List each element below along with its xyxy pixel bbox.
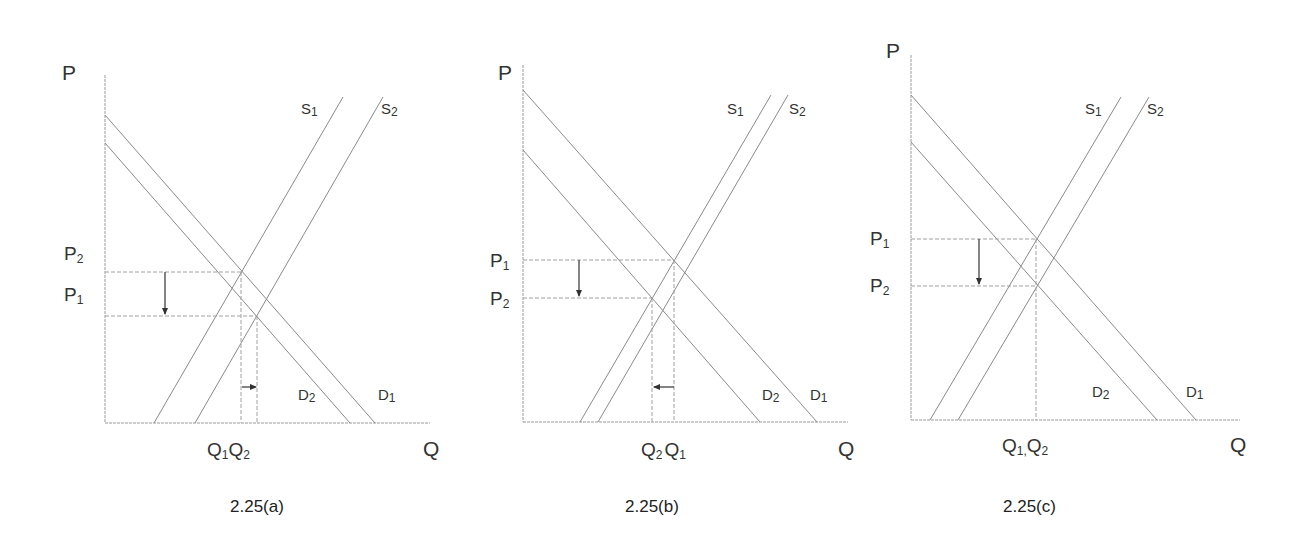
curve-label-s1: S1: [301, 100, 318, 119]
supply-curve-s2: [958, 97, 1149, 420]
curve-label-d1: D1: [810, 386, 828, 405]
curve-label-d2: D2: [298, 386, 316, 405]
supply-curve-s2: [195, 97, 383, 423]
demand-curve-d1: [911, 95, 1196, 420]
curve-label-d2: D2: [1092, 383, 1110, 402]
price-label-p2: P2: [64, 243, 84, 266]
caption-a: 2.25(a): [230, 497, 284, 516]
supply-demand-figure: P Q P2 P1 Q1Q2 S1 S2 D2 D1 2.25(a) P Q P…: [0, 0, 1316, 548]
price-label-p2: P2: [870, 275, 890, 298]
demand-curve-d2: [911, 142, 1157, 420]
demand-curve-d2: [523, 150, 760, 422]
quantity-label: Q1,Q2: [1002, 435, 1049, 458]
axis-label-q: Q: [423, 437, 439, 460]
price-label-p1: P1: [490, 250, 510, 273]
panel-b: P Q P1 P2 Q2Q1 S1 S2 D2 D1 2.25(b): [490, 61, 854, 516]
curve-label-s2: S2: [381, 100, 398, 119]
curve-label-s1: S1: [1085, 100, 1102, 119]
quantity-label: Q2Q1: [641, 439, 686, 462]
supply-curve-s2: [598, 95, 788, 422]
demand-curve-d1: [105, 115, 375, 423]
axis-label-p: P: [886, 39, 900, 62]
curve-label-d1: D1: [378, 386, 396, 405]
demand-curve-d2: [105, 143, 350, 423]
caption-c: 2.25(c): [1003, 497, 1056, 516]
price-label-p1: P1: [870, 228, 890, 251]
axis-label-q: Q: [1230, 433, 1246, 456]
axis-label-p: P: [62, 61, 76, 84]
curve-label-d1: D1: [1186, 383, 1204, 402]
panel-c: P Q P1 P2 Q1,Q2 S1 S2 D2 D1 2.25(c): [870, 39, 1246, 516]
supply-curve-s1: [580, 95, 771, 422]
price-label-p2: P2: [490, 288, 510, 311]
panel-a: P Q P2 P1 Q1Q2 S1 S2 D2 D1 2.25(a): [62, 61, 439, 516]
price-label-p1: P1: [64, 284, 84, 307]
curve-label-s1: S1: [727, 100, 744, 119]
curve-label-s2: S2: [1147, 100, 1164, 119]
curve-label-d2: D2: [762, 386, 780, 405]
supply-curve-s1: [154, 97, 343, 423]
curve-label-s2: S2: [789, 100, 806, 119]
quantity-label: Q1Q2: [207, 439, 250, 462]
caption-b: 2.25(b): [625, 497, 679, 516]
axis-label-p: P: [498, 61, 512, 84]
axis-label-q: Q: [838, 437, 854, 460]
supply-curve-s1: [930, 97, 1121, 420]
demand-curve-d1: [523, 90, 817, 422]
